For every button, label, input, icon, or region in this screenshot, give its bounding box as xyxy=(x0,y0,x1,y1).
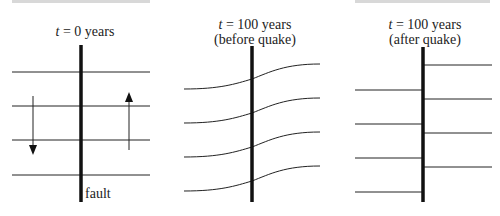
fault-label: fault xyxy=(85,186,111,202)
arrow-up-icon xyxy=(125,92,133,102)
arrow-down-icon xyxy=(29,145,37,155)
fault-diagram xyxy=(0,0,500,216)
